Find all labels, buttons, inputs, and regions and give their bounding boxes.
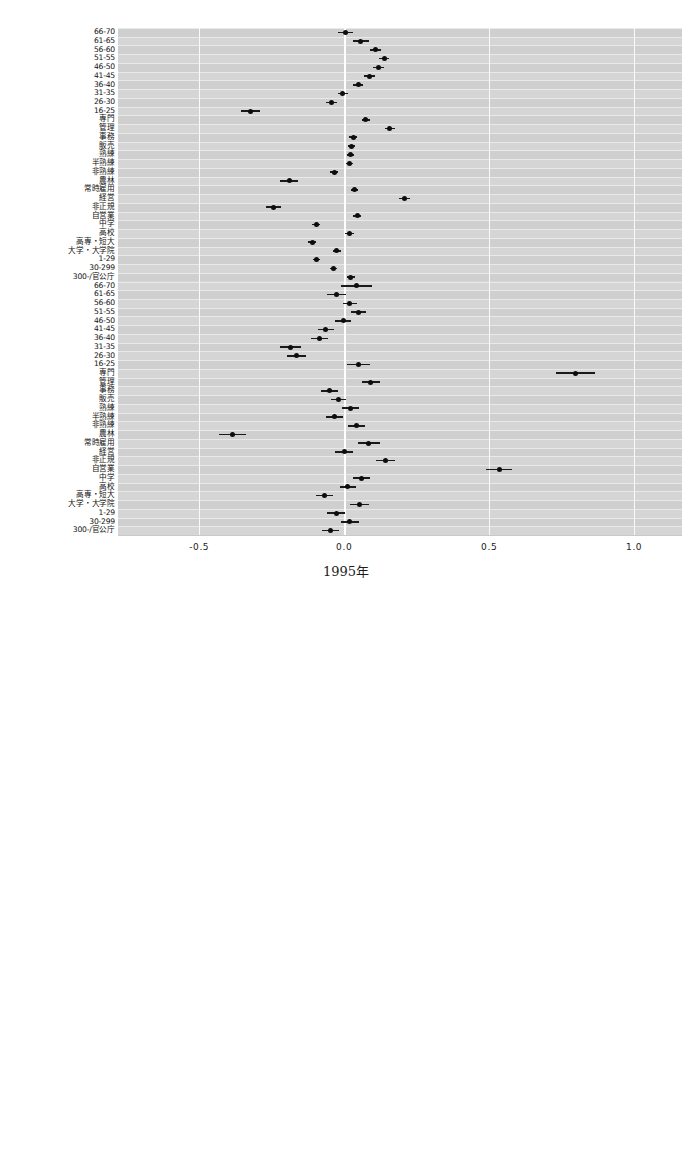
y-axis-tick-label: 非熟練 — [0, 421, 115, 429]
plot-band — [118, 168, 682, 177]
plot-band — [118, 238, 682, 247]
horizontal-gridline — [118, 439, 682, 440]
horizontal-gridline — [118, 255, 682, 256]
y-axis-tick-label: 非熟練 — [0, 168, 115, 176]
data-point — [288, 345, 293, 350]
horizontal-gridline — [118, 316, 682, 317]
horizontal-gridline — [118, 98, 682, 99]
figure-page: 66-7061-6556-6051-5546-5041-4536-4031-35… — [0, 0, 692, 1171]
data-point — [376, 65, 381, 70]
y-axis-tick-label: 自営業 — [0, 212, 115, 220]
data-point — [351, 135, 356, 140]
horizontal-gridline — [118, 185, 682, 186]
data-point — [573, 371, 578, 376]
data-point — [332, 170, 337, 175]
x-axis-tick-label: 0.5 — [449, 542, 529, 552]
horizontal-gridline — [118, 491, 682, 492]
y-axis-tick-label: 61-65 — [0, 37, 115, 45]
y-axis-tick-label: 常時雇用 — [0, 185, 115, 193]
y-axis-tick-label: 中学 — [0, 220, 115, 228]
horizontal-gridline — [118, 360, 682, 361]
vertical-gridline — [344, 28, 345, 535]
horizontal-gridline — [118, 413, 682, 414]
horizontal-gridline — [118, 343, 682, 344]
horizontal-gridline — [118, 168, 682, 169]
plot-band — [118, 133, 682, 142]
horizontal-gridline — [118, 203, 682, 204]
data-point — [354, 423, 359, 428]
data-point — [334, 292, 339, 297]
horizontal-gridline — [118, 133, 682, 134]
data-point — [334, 511, 339, 516]
data-point — [402, 196, 407, 201]
y-axis-tick-label: 専門 — [0, 115, 115, 123]
data-point — [348, 406, 353, 411]
plot-band — [118, 115, 682, 124]
horizontal-gridline — [118, 395, 682, 396]
data-point — [382, 56, 387, 61]
data-point — [357, 502, 362, 507]
plot-band — [118, 430, 682, 439]
y-axis-tick-label: 販売 — [0, 142, 115, 150]
horizontal-gridline — [118, 142, 682, 143]
data-point — [329, 100, 334, 105]
horizontal-gridline — [118, 351, 682, 352]
data-point — [317, 336, 322, 341]
horizontal-gridline — [118, 500, 682, 501]
y-axis-tick-label: 1-29 — [0, 509, 115, 517]
horizontal-gridline — [118, 247, 682, 248]
y-axis-tick-label: 管理 — [0, 378, 115, 386]
plot-band — [118, 500, 682, 509]
data-point — [349, 144, 354, 149]
y-axis-tick-label: 農林 — [0, 430, 115, 438]
plot-band — [118, 273, 682, 282]
y-axis-tick-label: 中学 — [0, 474, 115, 482]
y-axis-tick-label: 高専・短大 — [0, 238, 115, 246]
y-axis-tick-label: 経営 — [0, 194, 115, 202]
data-point — [368, 380, 373, 385]
data-point — [248, 109, 253, 114]
horizontal-gridline — [118, 115, 682, 116]
data-point — [347, 161, 352, 166]
horizontal-gridline — [118, 238, 682, 239]
horizontal-gridline — [118, 299, 682, 300]
horizontal-gridline — [118, 282, 682, 283]
plot-band — [118, 290, 682, 299]
data-point — [347, 301, 352, 306]
horizontal-gridline — [118, 273, 682, 274]
y-axis-tick-label: 300-/官公庁 — [0, 273, 115, 281]
horizontal-gridline — [118, 45, 682, 46]
horizontal-gridline — [118, 212, 682, 213]
y-axis-tick-label: 事務 — [0, 386, 115, 394]
horizontal-gridline — [118, 386, 682, 387]
y-axis-tick-label: 41-45 — [0, 72, 115, 80]
y-axis-tick-label: 管理 — [0, 124, 115, 132]
plot-band — [118, 220, 682, 229]
data-point — [287, 178, 292, 183]
data-point — [294, 353, 299, 358]
horizontal-gridline — [118, 509, 682, 510]
horizontal-gridline — [118, 177, 682, 178]
data-point — [327, 388, 332, 393]
data-point — [347, 231, 352, 236]
horizontal-gridline — [118, 220, 682, 221]
plot-band — [118, 63, 682, 72]
horizontal-gridline — [118, 404, 682, 405]
y-axis-tick-label: 自営業 — [0, 465, 115, 473]
data-point — [331, 266, 336, 271]
data-point — [322, 493, 327, 498]
plot-band — [118, 360, 682, 369]
y-axis-tick-label: 専門 — [0, 369, 115, 377]
horizontal-gridline — [118, 89, 682, 90]
data-point — [359, 476, 364, 481]
data-point — [356, 310, 361, 315]
horizontal-gridline — [118, 72, 682, 73]
y-axis-tick-label: 30-299 — [0, 264, 115, 272]
horizontal-gridline — [118, 80, 682, 81]
horizontal-gridline — [118, 448, 682, 449]
data-point — [367, 74, 372, 79]
horizontal-gridline — [118, 124, 682, 125]
x-axis-tick-label: 0.0 — [304, 542, 384, 552]
y-axis-tick-label: 16-25 — [0, 360, 115, 368]
data-point — [358, 39, 363, 44]
